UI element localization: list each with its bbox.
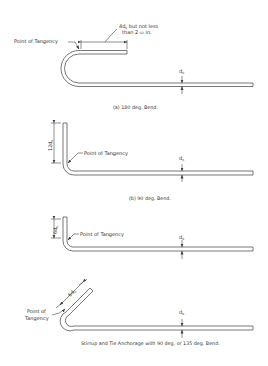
tangency-leader-c [68,234,79,240]
tangency-label-a: Point of Tangency [14,38,58,45]
db-label-d: db [179,309,184,316]
db-label-c: db [179,234,184,241]
tangency-label-d-line2: Tangency [24,315,49,322]
figure-stirrup-90: 6db Point of Tangency db [51,217,253,259]
db-label-a: db [179,68,184,75]
rebar-180-outline [61,51,253,87]
rebar-stirrup-135-outline [60,288,253,331]
ext-label-c: 6db [52,226,59,234]
tangency-leader-b [68,153,83,163]
figure-180-deg-bend: 4db but not less than 21/2 in. Point of … [14,23,253,110]
tangency-label-d-line1: Point of [27,308,46,314]
db-label-b: db [179,155,184,162]
caption-a: (a) 180 deg. Bend. [113,105,158,110]
ext-leader [105,29,117,42]
caption-b: (b) 90 deg. Bend. [129,196,171,201]
ext-label-b: 12db [47,139,54,151]
ext-label-a-line2: than 21/2 in. [122,29,152,35]
figure-stirrup-135: 6db Point of Tangency db Stirrup and Tie… [24,279,253,346]
caption-d: Stirrup and Tie Anchorage with 90 deg. o… [81,341,220,346]
rebar-90-outline [63,123,253,175]
rebar-hook-diagram: 4db but not less than 21/2 in. Point of … [0,0,268,366]
tangency-label-c: Point of Tangency [80,231,124,238]
tangency-leader-a [68,42,79,49]
figure-90-deg-bend: 12db Point of Tangency db (b) 90 deg. Be… [47,123,253,201]
tangency-label-b: Point of Tangency [84,150,128,157]
